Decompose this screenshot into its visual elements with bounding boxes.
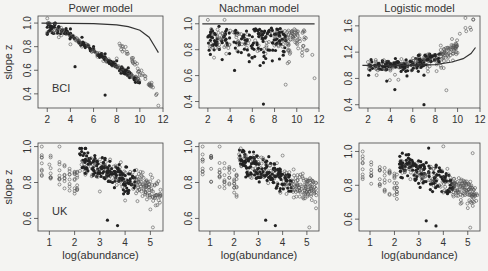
y-axis-label: slope z: [2, 45, 14, 80]
x-tick-label: 8: [272, 114, 278, 125]
y-tick-label: 0.6: [22, 211, 33, 225]
panel-title: Power model: [68, 2, 132, 14]
x-tick-label: 2: [44, 114, 50, 125]
x-tick-label: 2: [231, 237, 237, 248]
y-tick-label: 0.6: [343, 212, 354, 226]
x-tick-label: 12: [157, 114, 169, 125]
y-tick-label: 1.0: [22, 16, 33, 30]
x-tick-label: 2: [392, 237, 398, 248]
x-tick-label: 6: [250, 114, 256, 125]
panel-3: 246810120.40.81.21.6Logistic model: [343, 2, 486, 125]
x-tick-label: 3: [256, 237, 262, 248]
y-tick-label: 0.8: [183, 42, 194, 56]
panel-2: 246810120.40.60.81.0Nachman model: [183, 2, 325, 125]
x-tick-label: 6: [91, 114, 97, 125]
x-tick-label: 6: [410, 114, 416, 125]
y-tick-label: 0.4: [183, 94, 194, 108]
y-tick-label: 0.6: [183, 68, 194, 82]
x-tick-label: 10: [452, 114, 464, 125]
y-axis-label: slope z: [2, 170, 14, 205]
y-tick-label: 1.0: [22, 139, 33, 153]
x-tick-label: 12: [474, 114, 486, 125]
y-tick-label: 1.6: [343, 18, 354, 32]
x-tick-label: 10: [134, 114, 146, 125]
scatter-points: [361, 145, 479, 229]
y-tick-label: 1.2: [343, 45, 354, 59]
x-axis-label: log(abundance): [221, 249, 297, 261]
x-tick-label: 5: [148, 237, 154, 248]
x-tick-label: 1: [207, 237, 213, 248]
x-tick-label: 12: [313, 114, 325, 125]
x-tick-label: 2: [205, 114, 211, 125]
panel-6: 123450.60.81.0log(abundance): [343, 143, 480, 261]
y-tick-label: 1.0: [183, 139, 194, 153]
x-tick-label: 4: [68, 114, 74, 125]
x-tick-label: 3: [416, 237, 422, 248]
scatter-points: [206, 18, 316, 105]
y-tick-label: 1.0: [343, 144, 354, 158]
y-tick-label: 0.8: [22, 175, 33, 189]
y-tick-label: 0.4: [22, 86, 33, 100]
figure: 246810120.40.60.81.0Power modelBCIslope …: [0, 0, 488, 271]
x-tick-label: 4: [122, 237, 128, 248]
x-tick-label: 4: [388, 114, 394, 125]
x-axis-label: log(abundance): [62, 249, 138, 261]
panel-4: 123450.60.81.0UKslope zlog(abundance): [2, 139, 163, 261]
y-tick-label: 0.8: [343, 178, 354, 192]
x-tick-label: 3: [97, 237, 103, 248]
y-tick-label: 0.8: [22, 39, 33, 53]
x-tick-label: 4: [227, 114, 233, 125]
x-tick-label: 5: [465, 237, 471, 248]
y-tick-label: 0.4: [343, 97, 354, 111]
y-tick-label: 0.8: [183, 175, 194, 189]
panel-title: Nachman model: [219, 2, 299, 14]
x-axis-label: log(abundance): [381, 249, 457, 261]
y-tick-label: 0.6: [22, 63, 33, 77]
scatter-points: [366, 16, 474, 106]
x-tick-label: 1: [367, 237, 373, 248]
x-tick-label: 4: [280, 237, 286, 248]
x-tick-label: 1: [47, 237, 53, 248]
x-tick-label: 2: [72, 237, 78, 248]
x-tick-label: 8: [114, 114, 120, 125]
x-tick-label: 5: [304, 237, 310, 248]
y-tick-label: 1.0: [183, 16, 194, 30]
panel-1: 246810120.40.60.81.0Power modelBCIslope …: [2, 2, 169, 125]
x-tick-label: 2: [365, 114, 371, 125]
panel-5: 123450.60.81.0log(abundance): [183, 139, 319, 261]
x-tick-label: 10: [291, 114, 303, 125]
scatter-points: [201, 145, 318, 229]
y-tick-label: 0.6: [183, 211, 194, 225]
x-tick-label: 4: [441, 237, 447, 248]
panel-label: BCI: [52, 82, 70, 94]
panel-title: Logistic model: [384, 2, 454, 14]
panel-label: UK: [52, 205, 68, 217]
x-tick-label: 8: [432, 114, 438, 125]
y-tick-label: 0.8: [343, 71, 354, 85]
